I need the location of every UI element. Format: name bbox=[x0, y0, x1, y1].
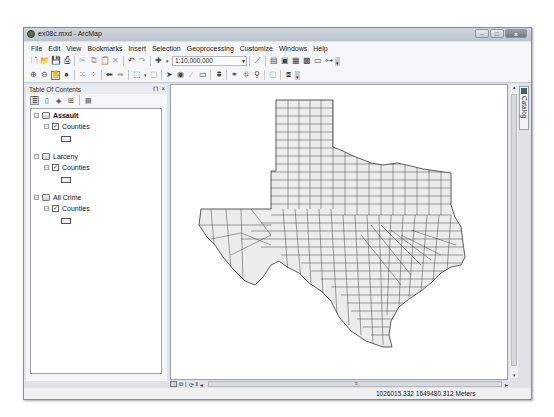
select-elements-icon[interactable]: ➤ bbox=[165, 71, 174, 80]
model-builder-icon[interactable]: ⊶ bbox=[324, 57, 333, 66]
collapse-icon[interactable]: − bbox=[34, 154, 39, 159]
collapse-icon[interactable]: − bbox=[34, 113, 39, 118]
symbol-swatch[interactable] bbox=[61, 136, 71, 142]
maximize-button[interactable]: □ bbox=[490, 29, 504, 38]
menu-bookmarks[interactable]: Bookmarks bbox=[84, 45, 125, 52]
catalog-side-tab[interactable]: Catalog bbox=[519, 86, 529, 130]
menu-file[interactable]: File bbox=[28, 45, 45, 52]
paste-icon[interactable]: 📋 bbox=[100, 57, 109, 66]
measure-icon[interactable]: ⩩ bbox=[214, 71, 223, 80]
layer-counties[interactable]: − ✓ Counties bbox=[44, 123, 90, 130]
map-display[interactable] bbox=[170, 84, 508, 380]
select-dropdown-icon[interactable]: ▾ bbox=[143, 71, 147, 80]
zoom-out-icon[interactable]: ⊖ bbox=[40, 71, 49, 80]
toolbar-overflow-icon[interactable]: ▾ bbox=[295, 71, 300, 80]
data-frame-all-crime[interactable]: − All Crime bbox=[34, 194, 81, 201]
scroll-left-icon[interactable]: ◂ bbox=[200, 381, 203, 388]
go-to-xy-icon[interactable]: ⚲ bbox=[252, 71, 261, 80]
scroll-down-icon[interactable]: ▾ bbox=[510, 372, 518, 378]
options-icon[interactable]: ▤ bbox=[84, 96, 93, 105]
cut-icon[interactable]: ✂ bbox=[78, 57, 87, 66]
symbol-swatch[interactable] bbox=[61, 218, 71, 224]
list-by-drawing-order-icon[interactable]: ≣ bbox=[30, 96, 39, 105]
menu-customize[interactable]: Customize bbox=[237, 45, 276, 52]
hyperlink-icon[interactable]: ⁄ bbox=[187, 71, 196, 80]
copy-icon[interactable]: ⧉ bbox=[89, 57, 98, 66]
zoom-in-icon[interactable]: ⊕ bbox=[29, 71, 38, 80]
redo-icon[interactable]: ↷ bbox=[138, 57, 147, 66]
data-frame-larceny[interactable]: − Larceny bbox=[34, 153, 78, 160]
collapse-icon[interactable]: − bbox=[44, 124, 49, 129]
map-vertical-scrollbar[interactable]: ▴ ▾ bbox=[510, 84, 518, 378]
data-frame-icon bbox=[42, 112, 50, 119]
menu-selection[interactable]: Selection bbox=[149, 45, 184, 52]
data-frame-assault[interactable]: − Assault bbox=[34, 112, 78, 119]
create-viewer-window-icon[interactable]: ⧈ bbox=[284, 71, 293, 80]
layer-counties[interactable]: − ✓ Counties bbox=[44, 205, 90, 212]
list-by-visibility-icon[interactable]: ◈ bbox=[54, 96, 63, 105]
fixed-zoom-out-icon[interactable]: ⁘ bbox=[89, 71, 98, 80]
toolbar-separator bbox=[128, 70, 129, 80]
symbol-swatch[interactable] bbox=[61, 177, 71, 183]
new-document-icon[interactable]: 🗋 bbox=[29, 57, 38, 66]
menu-view[interactable]: View bbox=[63, 45, 84, 52]
minimize-button[interactable]: – bbox=[475, 29, 489, 38]
full-extent-icon[interactable]: ● bbox=[62, 71, 71, 80]
forward-extent-icon[interactable]: ➡ bbox=[116, 71, 125, 80]
collapse-icon[interactable]: − bbox=[44, 165, 49, 170]
collapse-icon[interactable]: − bbox=[34, 195, 39, 200]
html-popup-icon[interactable]: ▭ bbox=[198, 71, 207, 80]
arctoolbox-icon[interactable]: ▩ bbox=[302, 57, 311, 66]
add-data-dropdown-icon[interactable]: ▾ bbox=[165, 57, 169, 66]
list-by-selection-icon[interactable]: ⊞ bbox=[66, 96, 75, 105]
save-icon[interactable]: 💾 bbox=[51, 57, 60, 66]
add-data-icon[interactable]: ✚ bbox=[154, 57, 163, 66]
identify-icon[interactable]: ◉ bbox=[176, 71, 185, 80]
clear-selection-icon[interactable]: ▢ bbox=[149, 71, 158, 80]
python-window-icon[interactable]: ▭ bbox=[313, 57, 322, 66]
map-scale-dropdown[interactable]: 1:10,000,000 ▾ bbox=[172, 56, 247, 66]
open-icon[interactable]: 📂 bbox=[40, 57, 49, 66]
scroll-up-icon[interactable]: ▴ bbox=[510, 84, 518, 90]
menu-geoprocessing[interactable]: Geoprocessing bbox=[184, 45, 237, 52]
list-by-source-icon[interactable]: ▯ bbox=[42, 96, 51, 105]
refresh-icon[interactable]: ⟳ bbox=[189, 381, 194, 388]
select-features-icon[interactable]: ⬚ bbox=[132, 71, 141, 80]
layout-view-icon[interactable]: ⧉ bbox=[179, 381, 183, 388]
layer-counties[interactable]: − ✓ Counties bbox=[44, 164, 90, 171]
toc-tree: − Assault − ✓ Counties − Larceny − ✓ Cou… bbox=[30, 108, 162, 374]
back-extent-icon[interactable]: ⬅ bbox=[105, 71, 114, 80]
pause-drawing-icon[interactable]: ‖ bbox=[196, 381, 198, 387]
find-icon[interactable]: ⚭ bbox=[230, 71, 239, 80]
toolbar-separator bbox=[101, 70, 102, 80]
map-horizontal-scrollbar[interactable]: ≡ bbox=[208, 381, 502, 387]
menu-edit[interactable]: Edit bbox=[45, 45, 63, 52]
close-icon[interactable]: × bbox=[161, 85, 165, 93]
menu-help[interactable]: Help bbox=[310, 45, 330, 52]
menu-windows[interactable]: Windows bbox=[276, 45, 310, 52]
find-route-icon[interactable]: ⛗ bbox=[241, 71, 250, 80]
layer-visibility-checkbox[interactable]: ✓ bbox=[52, 123, 59, 130]
close-button[interactable]: x bbox=[505, 29, 527, 38]
search-window-icon[interactable]: ▦ bbox=[291, 57, 300, 66]
time-slider-icon[interactable]: ▢ bbox=[268, 71, 277, 80]
editor-toolbar-icon[interactable]: ⟋ bbox=[253, 57, 262, 66]
collapse-icon[interactable]: − bbox=[44, 206, 49, 211]
pan-icon[interactable]: ✋ bbox=[51, 71, 60, 80]
layer-visibility-checkbox[interactable]: ✓ bbox=[52, 164, 59, 171]
pin-icon[interactable]: ⊓ bbox=[153, 85, 158, 93]
scroll-right-icon[interactable]: ▸ bbox=[505, 381, 508, 388]
undo-icon[interactable]: ↶ bbox=[127, 57, 136, 66]
fixed-zoom-in-icon[interactable]: ⁙ bbox=[78, 71, 87, 80]
delete-icon[interactable]: ✕ bbox=[111, 57, 120, 66]
data-frame-icon bbox=[42, 153, 50, 160]
scroll-thumb[interactable] bbox=[511, 94, 517, 366]
catalog-window-icon[interactable]: ▣ bbox=[280, 57, 289, 66]
data-view-icon[interactable] bbox=[170, 381, 177, 387]
menu-insert[interactable]: Insert bbox=[125, 45, 149, 52]
toolbar-overflow-icon[interactable]: ▾ bbox=[335, 57, 340, 66]
title-bar[interactable]: ex08c.mxd - ArcMap – □ x bbox=[24, 28, 531, 41]
table-of-contents-icon[interactable]: ▤ bbox=[269, 57, 278, 66]
layer-visibility-checkbox[interactable]: ✓ bbox=[52, 205, 59, 212]
print-icon[interactable]: ⎙ bbox=[62, 57, 71, 66]
